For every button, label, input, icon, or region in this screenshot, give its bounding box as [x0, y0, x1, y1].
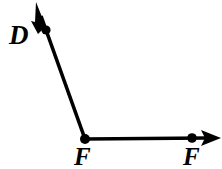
point-dot-d	[41, 25, 50, 34]
point-label-d: D	[9, 22, 29, 49]
point-dot-end-f	[187, 133, 197, 143]
geometry-figure: D F F	[0, 0, 222, 169]
point-label-end-f: F	[183, 144, 200, 169]
point-label-vertex-f: F	[74, 144, 91, 169]
ray-upper-left-line	[41, 16, 85, 139]
